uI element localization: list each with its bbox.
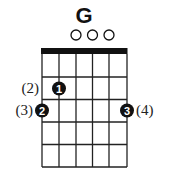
finger-label: (3): [16, 102, 34, 119]
finger-dot-1: 1 (2): [22, 80, 67, 97]
finger-label: (2): [22, 80, 40, 97]
open-string-markers: [71, 30, 114, 40]
finger-number: 1: [56, 83, 62, 95]
chord-diagram: G 1 (2) 2 (3) 3 (4): [0, 0, 170, 174]
finger-dot-3: 3 (4): [120, 102, 154, 119]
finger-number: 3: [124, 105, 130, 117]
fretboard-grid: [42, 54, 127, 167]
finger-label: (4): [136, 102, 154, 119]
finger-number: 2: [39, 105, 45, 117]
finger-dot-2: 2 (3): [16, 102, 50, 119]
open-string-icon: [88, 30, 98, 40]
nut: [41, 48, 128, 54]
open-string-icon: [104, 30, 114, 40]
open-string-icon: [71, 30, 81, 40]
chord-name: G: [75, 3, 92, 28]
